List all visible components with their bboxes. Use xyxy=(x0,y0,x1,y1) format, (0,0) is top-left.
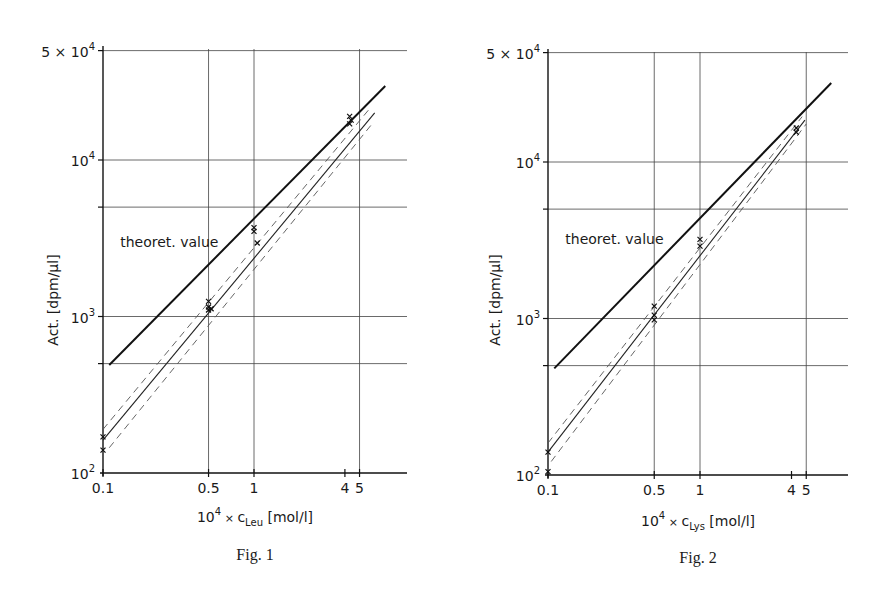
y-tick-label: 104 xyxy=(516,152,540,171)
y-tick-label: 5 × 104 xyxy=(41,41,95,60)
theoretical-line xyxy=(109,86,385,365)
x-tick-label: 4 xyxy=(787,482,796,498)
confidence-line xyxy=(551,124,806,462)
figure-caption: Fig. 1 xyxy=(236,546,273,564)
y-axis-title: Act. [dpm/µl] xyxy=(45,254,61,345)
confidence-line xyxy=(109,122,373,448)
theoretical-value-label: theoret. value xyxy=(565,231,663,247)
figure-canvas: 0.10.51451021031045 × 104Act. [dpm/µl]10… xyxy=(0,0,893,595)
chart-fig-1: 0.10.51451021031045 × 104Act. [dpm/µl]10… xyxy=(41,41,407,564)
x-tick-label: 5 xyxy=(355,480,364,496)
y-tick-label: 104 xyxy=(71,150,95,169)
fit-line xyxy=(103,113,375,440)
x-tick-label: 0.5 xyxy=(643,482,665,498)
x-tick-label: 1 xyxy=(696,482,705,498)
data-point-markers xyxy=(101,114,354,453)
x-tick-label: 4 xyxy=(340,480,349,496)
y-tick-label: 103 xyxy=(516,309,540,328)
figure-caption: Fig. 2 xyxy=(679,549,716,567)
x-axis-title: 104 × cLys [mol/l] xyxy=(641,510,755,532)
x-tick-label: 1 xyxy=(250,480,259,496)
x-tick-label: 0.1 xyxy=(92,480,114,496)
x-tick-label: 5 xyxy=(802,482,811,498)
y-tick-label: 103 xyxy=(71,307,95,326)
confidence-line xyxy=(548,117,802,443)
x-tick-label: 0.1 xyxy=(537,482,559,498)
theoretical-line xyxy=(554,83,831,368)
chart-fig-2: 0.10.51451021031045 × 104Act. [dpm/µl]10… xyxy=(486,43,848,567)
x-axis-title: 104 × cLeu [mol/l] xyxy=(197,506,313,528)
grid-lines xyxy=(548,52,848,475)
confidence-line xyxy=(103,106,372,429)
y-tick-label: 5 × 104 xyxy=(486,43,540,62)
y-axis-title: Act. [dpm/µl] xyxy=(487,254,503,345)
theoretical-value-label: theoret. value xyxy=(120,234,218,250)
grid-lines xyxy=(103,49,407,473)
fit-line xyxy=(548,120,805,452)
x-tick-label: 0.5 xyxy=(197,480,219,496)
